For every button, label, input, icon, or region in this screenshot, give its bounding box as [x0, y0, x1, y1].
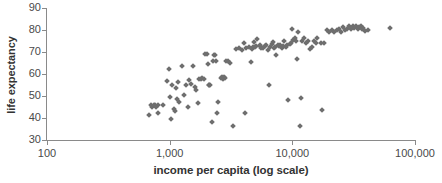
y-tick-label-text: 80 [1, 24, 41, 35]
y-tick-label-text: 30 [1, 134, 41, 145]
plot-area [47, 8, 415, 140]
data-point [185, 104, 191, 110]
x-tick-mark [47, 140, 48, 145]
data-point [173, 85, 179, 91]
data-point [167, 94, 173, 100]
y-tick-label: 50 [0, 90, 41, 101]
data-point [205, 61, 211, 67]
data-point [179, 63, 185, 69]
x-axis-title: income per capita (log scale) [47, 164, 415, 176]
data-point [227, 61, 233, 67]
data-point [248, 59, 254, 65]
data-point [242, 110, 248, 116]
data-point [190, 63, 196, 69]
y-tick-label: 80 [0, 24, 41, 35]
x-tick-label: 1,000 [156, 147, 184, 159]
scatter-chart: life expectancy 30405060708090 1001,0001… [0, 0, 442, 183]
data-point [201, 76, 207, 82]
x-axis-line [46, 140, 416, 141]
data-point [297, 123, 303, 129]
x-tick-label: 100 [38, 147, 56, 159]
y-tick-label-text: 60 [1, 68, 41, 79]
data-point [388, 25, 394, 31]
data-point [209, 119, 215, 125]
data-point [181, 92, 187, 98]
data-point [208, 82, 214, 88]
data-point [176, 79, 182, 85]
x-tick-mark [415, 140, 416, 145]
y-tick-label-text: 90 [1, 2, 41, 13]
data-point [168, 116, 174, 122]
data-point [156, 110, 162, 116]
data-point [172, 108, 178, 114]
data-point [166, 66, 172, 72]
x-tick-label: 100,000 [395, 147, 435, 159]
x-tick-label: 10,000 [276, 147, 310, 159]
data-point [146, 112, 152, 118]
x-tick-mark [292, 140, 293, 145]
data-point [230, 124, 236, 130]
x-tick-mark [170, 140, 171, 145]
data-point [296, 29, 302, 35]
data-point [319, 107, 325, 113]
data-point [298, 96, 304, 102]
data-point [177, 99, 183, 105]
y-tick-label: 60 [0, 68, 41, 79]
data-point [286, 97, 292, 103]
data-point [267, 82, 273, 88]
y-tick-label-text: 70 [1, 46, 41, 57]
y-tick-label: 30 [0, 134, 41, 145]
data-point [216, 99, 222, 105]
data-point [213, 58, 219, 64]
data-point [273, 52, 279, 58]
y-tick-label: 70 [0, 46, 41, 57]
data-point [160, 102, 166, 108]
data-point [195, 100, 201, 106]
y-tick-label: 90 [0, 2, 41, 13]
y-tick-label: 40 [0, 112, 41, 123]
data-point [295, 56, 301, 62]
y-tick-label-text: 50 [1, 90, 41, 101]
data-point [194, 87, 200, 93]
y-tick-label-text: 40 [1, 112, 41, 123]
data-point [215, 110, 221, 116]
